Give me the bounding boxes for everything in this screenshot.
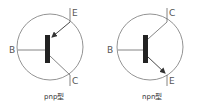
npn-caption: npn型 xyxy=(142,92,162,101)
pnp-collector-label: C xyxy=(72,76,78,86)
npn-collector-line xyxy=(148,22,167,39)
npn-emitter-label: E xyxy=(169,76,175,86)
transistor-symbols: B E C pnp型 B C E npn型 xyxy=(0,0,199,111)
pnp-emitter-arrow xyxy=(52,22,70,37)
pnp-base-label: B xyxy=(9,45,15,55)
npn-emitter-arrow xyxy=(148,57,165,73)
pnp-collector-line xyxy=(50,56,70,75)
npn-transistor-symbol: B C E npn型 xyxy=(107,8,183,101)
pnp-transistor-symbol: B E C pnp型 xyxy=(9,8,83,101)
npn-envelope-circle xyxy=(117,14,183,80)
pnp-emitter-label: E xyxy=(72,8,78,18)
pnp-caption: pnp型 xyxy=(44,92,64,101)
npn-collector-label: C xyxy=(169,8,175,18)
pnp-base-bar xyxy=(45,35,50,63)
npn-base-label: B xyxy=(107,45,113,55)
npn-base-bar xyxy=(143,35,148,63)
